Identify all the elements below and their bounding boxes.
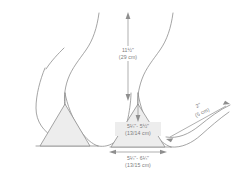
dimension-triangle-height: 5¼"- 5½" (13/14 cm) xyxy=(115,104,161,136)
dimension-vertical-top-label-metric: (29 cm) xyxy=(119,54,137,60)
contour-curve-left-s xyxy=(64,13,99,107)
dimension-triangle-base-arrowhead-left xyxy=(109,150,116,155)
diagram-root: 11½" (29 cm) 5¼"- 5½" (13/14 cm) 5¼"- 6¼… xyxy=(0,0,248,170)
dimension-side-leader-arrowhead-start xyxy=(166,138,173,142)
dimension-side-leader-arrowhead-end xyxy=(223,101,230,105)
contour-curve-right-tail-lower xyxy=(171,112,229,147)
dimension-side-leader-label-primary: 2" xyxy=(195,101,202,109)
dimension-triangle-base-arrowhead-right xyxy=(160,150,167,155)
technical-diagram-canvas: 11½" (29 cm) 5¼"- 5½" (13/14 cm) 5¼"- 6¼… xyxy=(0,0,248,170)
dimension-vertical-top-arrowhead-down xyxy=(126,94,131,101)
dimension-triangle-height-label-metric: (13/14 cm) xyxy=(125,130,151,136)
dimension-triangle-base: 5¼"- 6¼" (13/15 cm) xyxy=(109,150,167,168)
contour-curve-inner-left xyxy=(46,48,64,69)
dimension-side-leader: 2" (5 cm) xyxy=(166,101,230,143)
dimension-vertical-top-arrowhead-up xyxy=(126,12,131,19)
dimension-triangle-base-label-metric: (13/15 cm) xyxy=(125,162,151,168)
dimension-triangle-base-label-primary: 5¼"- 6¼" xyxy=(127,155,149,161)
left-cup-triangle xyxy=(40,104,90,146)
dimension-vertical-top-label-primary: 11½" xyxy=(122,47,134,53)
dimension-triangle-height-label-primary: 5¼"- 5½" xyxy=(127,123,149,129)
